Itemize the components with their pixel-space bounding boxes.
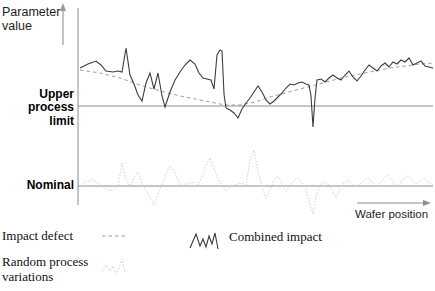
legend-label-random-process-variations: Random process variations bbox=[2, 255, 88, 284]
y-axis-label: Parameter value bbox=[2, 5, 60, 33]
legend-swatch-random-process-variations bbox=[102, 259, 125, 274]
x-axis-arrow bbox=[357, 200, 431, 206]
series-impact-defect bbox=[80, 63, 433, 105]
legend-label-combined-impact: Combined impact bbox=[229, 230, 322, 245]
x-axis-label: Wafer position bbox=[355, 208, 428, 221]
series-combined-impact bbox=[80, 48, 433, 127]
nominal-label: Nominal bbox=[0, 179, 74, 192]
legend-label-impact-defect: Impact defect bbox=[2, 229, 73, 244]
upper-process-limit-label: Upper process limit bbox=[0, 88, 74, 128]
series-random-process-variations bbox=[80, 150, 433, 214]
figure-root: Parameter value Upper process limit Nomi… bbox=[0, 0, 435, 291]
process-variation-chart bbox=[0, 0, 435, 291]
legend-swatch-combined-impact bbox=[190, 233, 218, 249]
